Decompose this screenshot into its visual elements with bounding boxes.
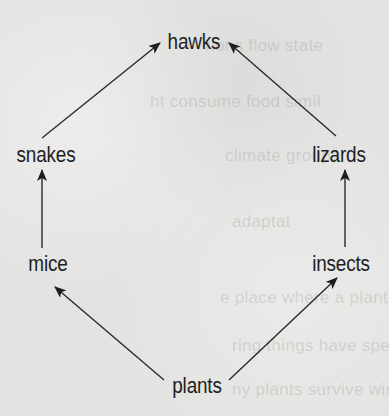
node-hawks: hawks [168,31,221,53]
arrow-plants-to-mice [55,287,164,380]
node-snakes: snakes [17,144,76,166]
node-plants: plants [172,375,221,397]
food-web-arrows [0,0,389,416]
arrow-lizards-to-hawks [229,43,336,136]
node-mice: mice [28,253,67,275]
arrow-snakes-to-hawks [42,43,160,138]
node-lizards: lizards [312,144,365,166]
arrow-plants-to-insects [229,278,337,380]
node-insects: insects [312,253,370,275]
